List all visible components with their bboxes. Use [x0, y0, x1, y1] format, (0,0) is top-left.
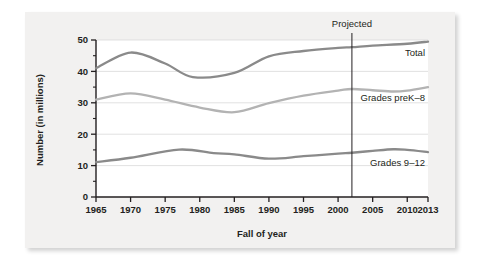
series-label-2: Grades preK–8 — [361, 92, 425, 103]
projected-annotation-label: Projected — [332, 18, 372, 29]
y-axis-title: Number (in millions) — [34, 74, 45, 166]
y-tick-label: 50 — [77, 34, 88, 45]
x-tick-label: 1995 — [293, 204, 315, 215]
x-tick-label: 1985 — [224, 204, 246, 215]
x-tick-label: 1970 — [120, 204, 141, 215]
y-tick-label: 30 — [77, 97, 88, 108]
x-tick-label: 2005 — [362, 204, 384, 215]
x-tick-label: 2013 — [417, 204, 438, 215]
y-tick-label: 40 — [77, 66, 88, 77]
x-tick-label: 1975 — [155, 204, 177, 215]
x-tick-label: 1980 — [189, 204, 210, 215]
y-tick-label: 0 — [83, 191, 88, 202]
y-tick-label: 10 — [77, 160, 88, 171]
x-tick-label: 1965 — [85, 204, 107, 215]
x-axis-title: Fall of year — [237, 228, 287, 239]
line-chart: 01020304050 1965197019751980198519901995… — [0, 0, 479, 261]
series-label-1: Total — [405, 47, 425, 58]
x-axis-ticks: 1965197019751980198519901995200020052010… — [85, 197, 438, 215]
x-tick-label: 2010 — [397, 204, 418, 215]
x-tick-label: 2000 — [328, 204, 349, 215]
series-label-3: Grades 9–12 — [370, 157, 425, 168]
x-tick-label: 1990 — [258, 204, 279, 215]
y-axis-ticks: 01020304050 — [77, 34, 96, 202]
plot-area-background — [96, 40, 428, 197]
y-tick-label: 20 — [77, 129, 88, 140]
